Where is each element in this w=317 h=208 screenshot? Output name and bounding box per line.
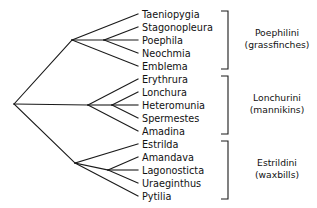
branch-root-to-clade-poephilini xyxy=(14,40,72,104)
tribe-name-lonchurini: Lonchurini xyxy=(253,92,301,103)
branch-poephilini-subnode-to-neochmia xyxy=(104,40,138,53)
branch-estrildini-node-to-subnode xyxy=(75,163,108,170)
branch-estrildini-node-to-estrilda xyxy=(75,144,138,163)
branch-lonchurini-node-to-amadina xyxy=(88,105,138,131)
taxon-label-heteromunia: Heteromunia xyxy=(142,100,205,111)
taxon-label-emblema: Emblema xyxy=(142,61,188,72)
taxon-label-lonchura: Lonchura xyxy=(142,87,187,98)
branch-lonchurini-subnode-to-lonchura xyxy=(112,92,138,105)
taxon-label-stagonopleura: Stagonopleura xyxy=(142,22,213,33)
tribe-name-estrildini: Estrildini xyxy=(257,157,297,168)
branch-root-to-clade-lonchurini xyxy=(14,104,88,105)
bracket-poephilini xyxy=(221,11,228,69)
taxon-label-erythrura: Erythrura xyxy=(142,74,188,85)
branch-estrildini-subnode-to-amandava xyxy=(108,157,138,170)
taxon-label-amadina: Amadina xyxy=(142,126,185,137)
tribe-common-name-estrildini: (waxbills) xyxy=(255,169,299,180)
tribe-name-poephilini: Poephilini xyxy=(255,27,299,38)
taxon-label-estrilda: Estrilda xyxy=(142,139,178,150)
taxon-label-lagonosticta: Lagonosticta xyxy=(142,165,204,176)
taxon-label-spermestes: Spermestes xyxy=(142,113,199,124)
branch-root-to-clade-estrildini xyxy=(14,104,75,163)
taxon-label-amandava: Amandava xyxy=(142,152,194,163)
bracket-estrildini xyxy=(221,141,228,199)
taxon-label-taeniopygia: Taeniopygia xyxy=(141,9,200,20)
cladogram-figure: TaeniopygiaStagonopleuraPoephilaNeochmia… xyxy=(0,0,317,208)
branch-lonchurini-node-to-erythrura xyxy=(88,79,138,105)
phylogenetic-tree-svg: TaeniopygiaStagonopleuraPoephilaNeochmia… xyxy=(0,0,317,208)
taxon-label-pytilia: Pytilia xyxy=(142,191,171,202)
branch-poephilini-subnode-to-stagonopleura xyxy=(104,27,138,40)
branch-poephilini-node-to-taeniopygia xyxy=(72,14,138,40)
bracket-lonchurini xyxy=(221,76,228,134)
tribe-labels: Poephilini(grassfinches)Lonchurini(manni… xyxy=(245,27,310,180)
tribe-brackets xyxy=(221,11,228,199)
branch-lonchurini-subnode-to-spermestes xyxy=(112,105,138,118)
tribe-common-name-poephilini: (grassfinches) xyxy=(245,39,310,50)
tree-branches xyxy=(14,14,138,196)
taxon-label-poephila: Poephila xyxy=(142,35,183,46)
taxon-label-neochmia: Neochmia xyxy=(142,48,191,59)
taxon-label-uraeginthus: Uraeginthus xyxy=(142,178,201,189)
tribe-common-name-lonchurini: (mannikins) xyxy=(250,104,304,115)
taxon-labels: TaeniopygiaStagonopleuraPoephilaNeochmia… xyxy=(141,9,213,202)
branch-poephilini-node-to-emblema xyxy=(72,40,138,66)
branch-estrildini-subnode-to-uraeginthus xyxy=(108,170,138,183)
